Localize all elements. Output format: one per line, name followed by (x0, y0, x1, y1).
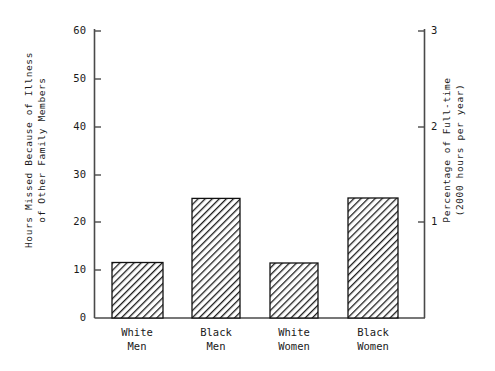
y-tick-label-20: 20 (60, 216, 86, 227)
x-tick-label-black-women: Black Women (328, 325, 418, 353)
x-tick-label-line: Women (328, 339, 418, 353)
x-tick-label-line: Men (171, 339, 261, 353)
bar-white-men (112, 263, 163, 319)
x-tick-label-white-men: White Men (92, 325, 182, 353)
y-tick-label-40: 40 (60, 121, 86, 132)
y2-tick-label-1: 1 (431, 216, 445, 227)
y2-tick-label-3: 3 (431, 25, 445, 36)
bar-series (112, 198, 398, 318)
y-tick-label-60: 60 (60, 25, 86, 36)
bar-black-women (348, 198, 398, 318)
bar-black-men (192, 198, 240, 318)
x-tick-label-line: Black (171, 325, 261, 339)
x-tick-label-white-women: White Women (249, 325, 339, 353)
x-tick-label-black-men: Black Men (171, 325, 261, 353)
y-axis-right (418, 29, 425, 318)
bar-white-women (270, 263, 318, 318)
y-axis-left (95, 29, 102, 318)
x-tick-label-line: Men (92, 339, 182, 353)
y-tick-label-0: 0 (60, 312, 86, 323)
bar-chart: Hours Missed Because of Illness of Other… (0, 0, 495, 371)
x-tick-label-line: White (92, 325, 182, 339)
y-tick-label-30: 30 (60, 169, 86, 180)
y-tick-label-10: 10 (60, 264, 86, 275)
x-tick-label-line: Black (328, 325, 418, 339)
x-tick-label-line: White (249, 325, 339, 339)
y-tick-label-50: 50 (60, 73, 86, 84)
x-tick-label-line: Women (249, 339, 339, 353)
y2-tick-label-2: 2 (431, 121, 445, 132)
